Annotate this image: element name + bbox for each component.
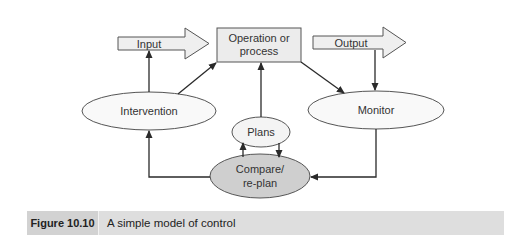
edge-operation-monitor <box>301 62 344 93</box>
control-model-diagram: Input Operation or process Output Interv… <box>0 0 526 249</box>
monitor-label: Monitor <box>358 104 395 116</box>
output-arrow: Output <box>313 27 406 58</box>
output-label: Output <box>334 37 367 49</box>
compare-label-line2: re-plan <box>243 177 277 189</box>
edge-monitor-compare <box>311 129 376 177</box>
intervention-node: Intervention <box>82 92 216 130</box>
compare-label-line1: Compare/ <box>236 163 285 175</box>
operation-label-line2: process <box>240 45 279 57</box>
intervention-label: Intervention <box>120 105 177 117</box>
operation-box: Operation or process <box>217 28 301 62</box>
compare-replan-node: Compare/ re-plan <box>210 154 310 198</box>
operation-label-line1: Operation or <box>228 32 289 44</box>
plans-node: Plans <box>232 117 290 147</box>
plans-label: Plans <box>247 126 275 138</box>
input-label: Input <box>137 38 161 50</box>
monitor-node: Monitor <box>308 91 444 129</box>
